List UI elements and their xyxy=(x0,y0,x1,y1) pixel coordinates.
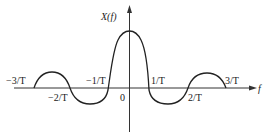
x-axis-arrow-icon xyxy=(249,86,257,91)
tick-label-neg3: −3/T xyxy=(6,76,26,86)
tick-label-pos2: 2/T xyxy=(188,93,202,103)
tick-label-neg1: −1/T xyxy=(86,76,106,86)
y-axis-arrow-icon xyxy=(127,5,132,13)
diagram-canvas: X(f) f 0 −3/T −2/T −1/T 1/T 2/T 3/T xyxy=(0,0,274,140)
tick-label-neg2: −2/T xyxy=(48,93,68,103)
origin-label: 0 xyxy=(120,93,125,103)
tick-label-pos3: 3/T xyxy=(225,76,239,86)
tick-label-pos1: 1/T xyxy=(151,76,165,86)
x-axis-label: f xyxy=(258,84,261,94)
y-axis-label: X(f) xyxy=(101,12,117,22)
sinc-plot xyxy=(0,0,274,140)
